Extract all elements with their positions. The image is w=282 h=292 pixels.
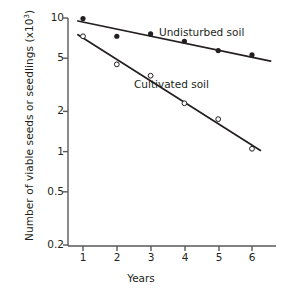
- trend-line: [78, 35, 261, 151]
- data-point-open: [250, 146, 255, 151]
- data-point-open: [81, 34, 86, 39]
- data-point-filled: [114, 34, 119, 39]
- trend-lines: [78, 21, 271, 150]
- y-axis-ticks: [63, 18, 68, 245]
- x-axis-ticks: [83, 246, 252, 251]
- chart-container: Number of viable seeds or seedlings (x10…: [0, 0, 282, 292]
- data-point-open: [114, 62, 119, 67]
- data-point-filled: [216, 48, 221, 53]
- data-point-filled: [182, 39, 187, 44]
- data-point-filled: [249, 52, 254, 57]
- data-point-filled: [148, 31, 153, 36]
- trend-line: [78, 21, 271, 61]
- axes: [68, 18, 276, 246]
- data-point-filled: [80, 16, 85, 21]
- data-point-open: [182, 101, 187, 106]
- data-point-open: [216, 117, 221, 122]
- data-point-open: [148, 73, 153, 78]
- plot-area: [0, 0, 282, 292]
